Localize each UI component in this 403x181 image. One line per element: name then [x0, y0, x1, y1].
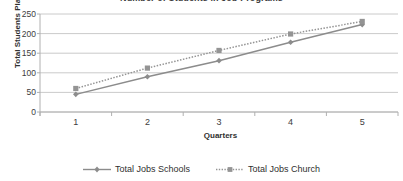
data-point-church: [360, 19, 365, 24]
legend-item-church[interactable]: Total Jobs Church: [216, 164, 320, 174]
plot-area: [0, 0, 403, 181]
series-line-church: [76, 21, 362, 88]
y-axis-tick-labels: 250200150100500: [0, 0, 36, 181]
line-chart: Number of Students in Job Programs Total…: [0, 0, 403, 181]
y-tick-label: 150: [8, 48, 36, 58]
data-point-schools: [145, 74, 151, 80]
x-tick-label: 1: [61, 117, 91, 127]
chart-title: Number of Students in Job Programs: [0, 0, 403, 3]
data-point-schools: [216, 58, 222, 64]
legend-item-schools[interactable]: Total Jobs Schools: [83, 164, 190, 174]
data-point-church: [216, 48, 221, 53]
y-tick-label: 0: [8, 107, 36, 117]
y-tick-label: 50: [8, 87, 36, 97]
x-axis-title: Quarters: [38, 131, 403, 140]
data-point-church: [288, 31, 293, 36]
y-tick-label: 100: [8, 68, 36, 78]
legend-label-schools: Total Jobs Schools: [115, 164, 190, 174]
x-tick-label: 3: [204, 117, 234, 127]
x-tick-label: 4: [276, 117, 306, 127]
legend-marker-schools-icon: [83, 165, 111, 174]
x-tick-label: 5: [347, 117, 377, 127]
y-tick-label: 250: [8, 9, 36, 19]
x-tick-label: 2: [132, 117, 162, 127]
legend-marker-church-icon: [216, 165, 244, 174]
data-point-church: [145, 65, 150, 70]
chart-legend: Total Jobs Schools Total Jobs Church: [0, 164, 403, 174]
legend-label-church: Total Jobs Church: [248, 164, 320, 174]
data-point-church: [73, 86, 78, 91]
data-point-schools: [288, 39, 294, 45]
y-tick-label: 200: [8, 29, 36, 39]
